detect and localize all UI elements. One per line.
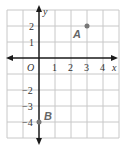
- coordinate-plane: y x O 1 2 3 4 2 1 −2 −3 −4 A B: [0, 0, 128, 150]
- y-tick-2: 2: [29, 21, 34, 32]
- x-axis-label: x: [111, 62, 117, 73]
- point-b-label: B: [44, 110, 52, 122]
- y-tick-neg3: −3: [22, 101, 33, 112]
- point-a-marker: [85, 24, 90, 29]
- point-a-label: A: [72, 28, 81, 40]
- x-tick-3: 3: [84, 62, 89, 73]
- x-tick-4: 4: [100, 62, 105, 73]
- y-tick-neg2: −2: [22, 85, 33, 96]
- x-tick-1: 1: [52, 62, 57, 73]
- point-b-marker: [37, 120, 42, 125]
- origin-label: O: [27, 62, 34, 73]
- x-tick-2: 2: [68, 62, 73, 73]
- y-axis-down-arrow-icon: [36, 138, 42, 145]
- y-tick-neg4: −4: [22, 117, 33, 128]
- x-axis-right-arrow-icon: [111, 55, 118, 61]
- y-axis-label: y: [42, 6, 48, 17]
- y-tick-1: 1: [29, 37, 34, 48]
- y-axis-up-arrow-icon: [36, 5, 42, 12]
